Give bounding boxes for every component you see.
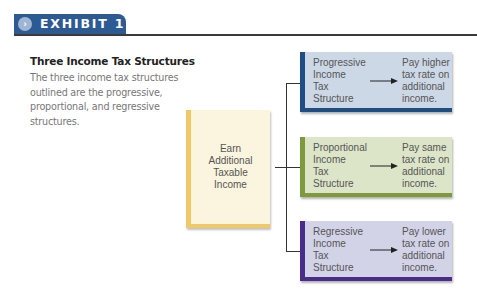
arrow-right-icon	[370, 162, 398, 170]
source-node-text: Earn Additional Taxable Income	[209, 143, 253, 191]
structure-name: Proportional Income Tax Structure	[313, 142, 367, 190]
exhibit-label: EXHIBIT 1	[40, 16, 125, 31]
regressive-structure-node: Regressive Income Tax Structure Pay lowe…	[300, 221, 452, 281]
chevron-right-icon: ›	[18, 17, 32, 31]
connector-proportional	[286, 167, 300, 168]
structure-result: Pay same tax rate on additional income.	[402, 142, 449, 190]
structure-name: Regressive Income Tax Structure	[313, 226, 363, 274]
figure-title: Three Income Tax Structures	[30, 55, 195, 67]
source-node-earn-income: Earn Additional Taxable Income	[186, 110, 270, 228]
structure-name: Progressive Income Tax Structure	[313, 57, 366, 105]
figure-description: The three income tax structures outlined…	[30, 71, 180, 129]
structure-result: Pay lower tax rate on additional income.	[402, 226, 449, 274]
connector-regressive	[286, 251, 300, 252]
connector-progressive	[286, 83, 300, 84]
structure-result: Pay higher tax rate on additional income…	[402, 57, 450, 105]
proportional-structure-node: Proportional Income Tax Structure Pay sa…	[300, 137, 452, 197]
arrow-right-icon	[370, 246, 398, 254]
arrow-right-icon	[370, 77, 398, 85]
progressive-structure-node: Progressive Income Tax Structure Pay hig…	[300, 52, 452, 112]
header-rule	[14, 34, 477, 36]
